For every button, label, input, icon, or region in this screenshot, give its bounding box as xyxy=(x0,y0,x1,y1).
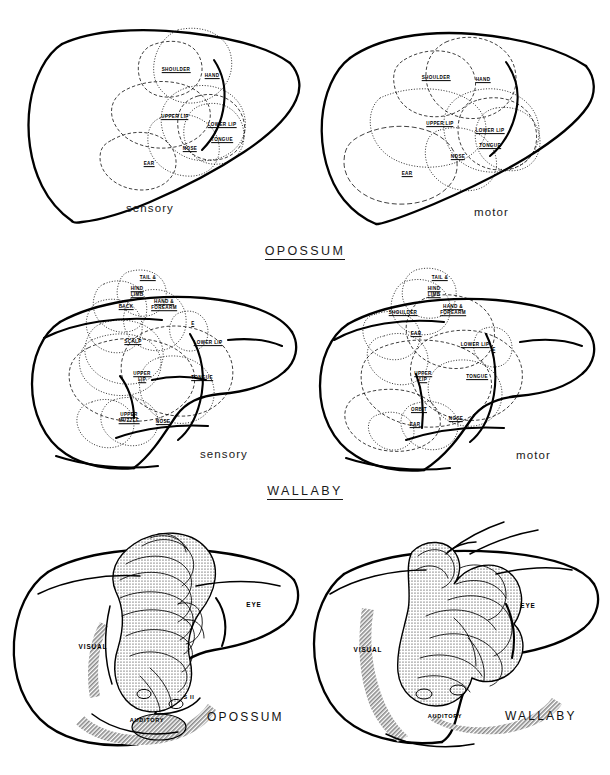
caption-wallaby-motor: motor xyxy=(516,449,551,461)
section-heading-wallaby-text: WALLABY xyxy=(267,484,342,500)
map-label-opossum-sensory-upper-lip: UPPER LIP xyxy=(161,114,188,120)
area-label-opossum-eye: EYE xyxy=(246,601,262,608)
area-label-opossum-auditory: AUDITORY xyxy=(130,717,165,723)
map-label-opossum-sensory-ear: EAR xyxy=(144,161,155,167)
figure-canvas: sensory motor OPOSSU xyxy=(0,0,610,775)
receptive-zones-wallaby-sensory xyxy=(69,270,233,448)
map-label-wallaby-motor-ear: EAR xyxy=(411,331,422,337)
map-label-wallaby-sensory-tail: TAIL & xyxy=(140,275,156,281)
panel-opossum-motor xyxy=(300,0,610,240)
area-label-wallaby-auditory: AUDITORY xyxy=(428,713,463,719)
map-label-opossum-motor-lower-lip: LOWER LIP xyxy=(476,128,505,134)
map-label-wallaby-sensory-upper-lip: UPPERLIP xyxy=(133,371,151,383)
map-label-wallaby-motor-e: E xyxy=(492,347,495,353)
map-label-wallaby-motor-ear: EAR xyxy=(410,422,421,428)
map-label-opossum-motor-ear: EAR xyxy=(402,171,413,177)
brain-outline-opossum-sensory xyxy=(29,30,300,223)
map-label-wallaby-motor-tongue: TONGUE xyxy=(466,374,488,380)
map-label-wallaby-motor-upper-lip: UPPERLIP xyxy=(414,371,432,383)
area-label-wallaby-eye: EYE xyxy=(520,602,536,609)
map-label-wallaby-sensory-e: E xyxy=(191,321,194,327)
map-label-opossum-motor-shoulder: SHOULDER xyxy=(422,75,451,81)
brain-outline-wallaby-motor xyxy=(320,299,594,470)
map-label-wallaby-motor-nose: NOSE xyxy=(449,416,463,422)
sulci-opossum-motor xyxy=(490,62,518,156)
panel-wallaby-motor xyxy=(300,262,610,487)
map-label-wallaby-motor-hand-forearm: HAND &FOREARM xyxy=(440,304,466,316)
map-label-opossum-sensory-nose: NOSE xyxy=(183,146,197,152)
map-label-wallaby-sensory-hind-limb: HINDLIMB xyxy=(131,286,144,298)
map-label-wallaby-sensory-nose: NOSE xyxy=(156,419,170,425)
map-label-wallaby-motor-hind-limb: HINDLIMB xyxy=(428,286,441,298)
map-label-wallaby-sensory-lower-lip: LOWER LIP xyxy=(194,340,223,346)
map-label-wallaby-motor-shoulder: SHOULDER xyxy=(389,310,418,316)
area-label-opossum-visual: VISUAL xyxy=(79,643,108,650)
somatosensory-field-wallaby xyxy=(398,542,523,706)
map-label-wallaby-motor-orbit: ORBIT xyxy=(411,407,427,413)
map-label-wallaby-sensory-scalp: SCALP xyxy=(124,339,141,345)
panel-wallaby-fields xyxy=(300,508,610,775)
sulci-wallaby-motor xyxy=(334,321,582,470)
map-label-opossum-motor-upper-lip: UPPER LIP xyxy=(426,121,453,127)
section-heading-opossum: OPOSSUM xyxy=(0,244,610,258)
section-heading-wallaby: WALLABY xyxy=(0,484,610,498)
section-heading-opossum-text: OPOSSUM xyxy=(265,244,346,260)
map-label-wallaby-sensory-hand-forearm: HAND &FOREARM xyxy=(151,299,177,311)
map-label-opossum-sensory-shoulder: SHOULDER xyxy=(162,67,191,73)
species-caption-wallaby: WALLABY xyxy=(505,709,577,723)
map-label-wallaby-sensory-tongue: TONGUE xyxy=(191,375,213,381)
map-label-opossum-sensory-lower-lip: LOWER LIP xyxy=(208,122,237,128)
map-label-wallaby-sensory-back: BACK xyxy=(119,304,134,310)
panel-wallaby-sensory xyxy=(0,262,305,487)
area-label-opossum-s-ii: S II xyxy=(183,694,194,700)
map-label-opossum-sensory-tongue: TONGUE xyxy=(211,137,233,143)
brain-outline-wallaby-sensory xyxy=(32,297,296,468)
map-label-wallaby-motor-tail: TAIL & xyxy=(432,275,448,281)
map-label-opossum-motor-hand: HAND xyxy=(476,77,491,83)
caption-wallaby-sensory: sensory xyxy=(200,448,248,460)
panel-opossum-fields xyxy=(0,508,305,775)
caption-opossum-sensory: sensory xyxy=(126,202,174,214)
sulci-wallaby-sensory xyxy=(44,319,282,468)
map-label-wallaby-sensory-upper-muzzle: UPPERMUZZLE xyxy=(119,412,140,424)
map-label-opossum-motor-nose: NOSE xyxy=(451,154,465,160)
somatosensory-field-opossum xyxy=(113,533,216,712)
map-label-opossum-sensory-hand: HAND xyxy=(205,73,220,79)
species-caption-opossum: OPOSSUM xyxy=(207,710,284,724)
map-label-opossum-motor-tongue: TONGUE xyxy=(479,143,501,149)
caption-opossum-motor: motor xyxy=(474,206,509,218)
map-label-wallaby-motor-lower-lip: LOWER LIP xyxy=(461,342,490,348)
area-label-wallaby-visual: VISUAL xyxy=(354,646,383,653)
